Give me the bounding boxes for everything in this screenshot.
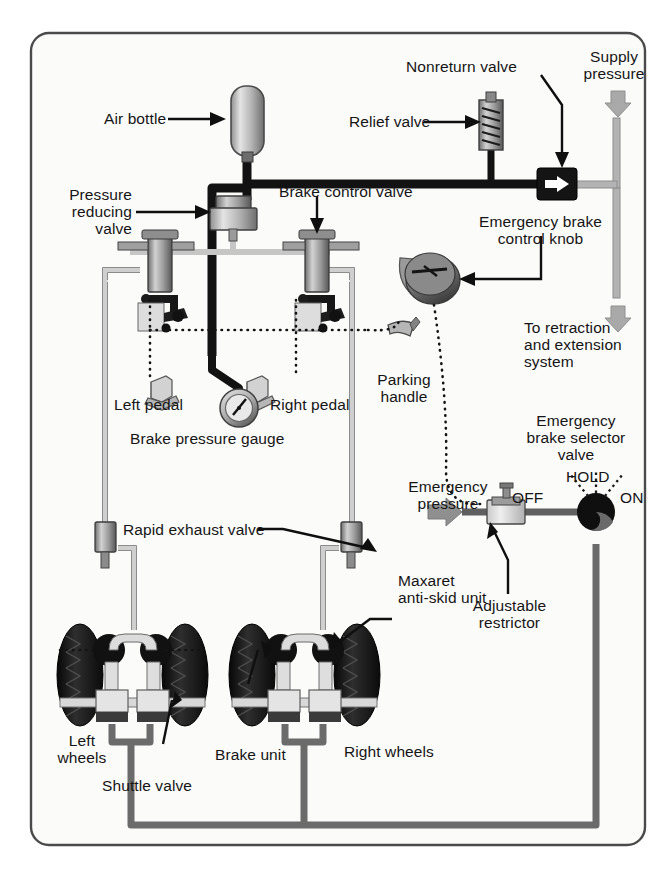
air-bottle	[231, 86, 264, 162]
label-selector-off: OFF	[512, 489, 543, 506]
label-emergency-brake-control-knob: Emergency brake control knob	[438, 213, 643, 247]
label-relief-valve: Relief valve	[349, 113, 430, 130]
label-to-retraction-system: To retraction and extension system	[524, 319, 622, 370]
relief-valve	[479, 92, 503, 150]
label-parking-handle: Parking handle	[358, 371, 450, 405]
label-nonreturn-valve: Nonreturn valve	[406, 58, 517, 75]
brake-pressure-gauge	[220, 389, 258, 427]
label-brake-unit: Brake unit	[215, 746, 286, 763]
label-right-pedal: Right pedal	[270, 396, 350, 413]
label-air-bottle: Air bottle	[104, 110, 166, 127]
nonreturn-valve	[537, 168, 577, 200]
label-shuttle-valve: Shuttle valve	[102, 777, 192, 794]
label-emergency-pressure: Emergency pressure	[386, 478, 510, 512]
label-right-wheels: Right wheels	[344, 743, 434, 760]
label-pressure-reducing-valve: Pressure reducing valve	[22, 186, 132, 237]
label-left-pedal: Left pedal	[114, 396, 183, 413]
emergency-brake-selector-valve[interactable]	[577, 493, 615, 531]
label-adjustable-restrictor: Adjustable restrictor	[442, 597, 577, 631]
label-brake-pressure-gauge: Brake pressure gauge	[130, 430, 285, 447]
label-selector-hold: HOLD	[566, 468, 609, 485]
label-supply-pressure: Supply pressure	[564, 48, 664, 82]
label-left-wheels: Left wheels	[42, 732, 122, 766]
label-selector-on: ON	[620, 489, 643, 506]
label-brake-control-valve: Brake control valve	[279, 183, 413, 200]
label-emergency-brake-selector-valve: Emergency brake selector valve	[496, 412, 656, 463]
label-rapid-exhaust-valve: Rapid exhaust valve	[123, 521, 264, 538]
